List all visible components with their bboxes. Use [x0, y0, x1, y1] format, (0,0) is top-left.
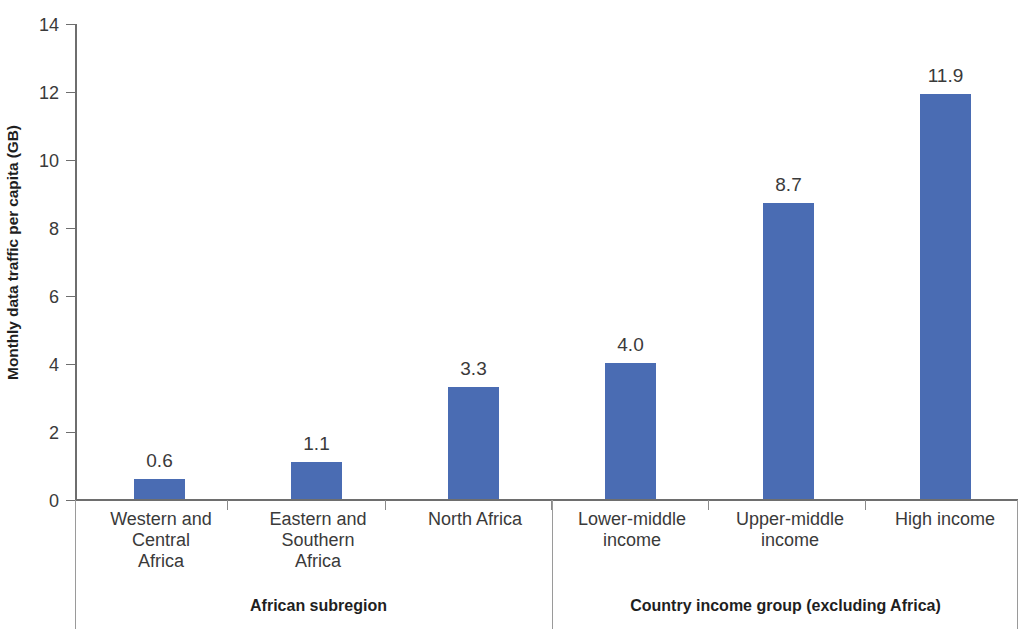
x-label-line: Eastern and	[242, 509, 394, 530]
x-label-eastern-and-southern-africa: Eastern and Southern Africa	[242, 509, 394, 572]
bar-chart: Monthly data traffic per capita (GB) 14 …	[0, 0, 1024, 629]
y-tick-label-4: 4	[49, 354, 59, 375]
x-label-line: Upper-middle	[714, 509, 866, 530]
x-label-line: income	[714, 530, 866, 551]
y-tick-label-0: 0	[49, 490, 59, 511]
y-tick-label-2: 2	[49, 422, 59, 443]
x-label-line: High income	[869, 509, 1021, 530]
plot-area: 14 12 10 8 6 4 2 0 0.6 1.1 3.3 4.0 8.7 1…	[75, 14, 1018, 500]
group-label-african-subregion: African subregion	[85, 597, 552, 615]
y-tick-0: 0	[66, 500, 75, 501]
x-label-line: Central	[85, 530, 237, 551]
y-tick-label-6: 6	[49, 286, 59, 307]
x-label-lower-middle-income: Lower-middle income	[556, 509, 708, 551]
bar-eastern-and-southern-africa[interactable]: 1.1	[291, 462, 342, 499]
bar-lower-middle-income[interactable]: 4.0	[605, 363, 656, 499]
y-axis-title: Monthly data traffic per capita (GB)	[0, 0, 26, 505]
bar-western-and-central-africa[interactable]: 0.6	[134, 479, 185, 499]
y-tick-12: 12	[66, 92, 75, 93]
y-tick-14: 14	[66, 24, 75, 25]
bar-value-label: 0.6	[146, 450, 172, 472]
y-axis-line	[75, 24, 77, 500]
y-tick-2: 2	[66, 432, 75, 433]
x-label-line: Lower-middle	[556, 509, 708, 530]
bar-value-label: 11.9	[928, 65, 964, 87]
bar-value-label: 1.1	[303, 433, 329, 455]
bar-north-africa[interactable]: 3.3	[448, 387, 499, 499]
category-label-band: Western and Central Africa Eastern and S…	[75, 500, 1018, 629]
x-label-western-and-central-africa: Western and Central Africa	[85, 509, 237, 572]
y-tick-label-14: 14	[39, 14, 59, 35]
y-tick-label-10: 10	[39, 150, 59, 171]
x-label-upper-middle-income: Upper-middle income	[714, 509, 866, 551]
y-tick-label-8: 8	[49, 218, 59, 239]
bar-value-label: 8.7	[775, 174, 801, 196]
y-tick-6: 6	[66, 296, 75, 297]
y-tick-4: 4	[66, 364, 75, 365]
x-label-line: Western and	[85, 509, 237, 530]
bar-high-income[interactable]: 11.9	[920, 94, 971, 499]
group-label-country-income-group: Country income group (excluding Africa)	[554, 597, 1017, 615]
bar-value-label: 3.3	[460, 358, 486, 380]
y-tick-10: 10	[66, 160, 75, 161]
y-tick-8: 8	[66, 228, 75, 229]
x-label-north-africa: North Africa	[399, 509, 551, 530]
x-label-line: income	[556, 530, 708, 551]
y-tick-label-12: 12	[39, 82, 59, 103]
x-label-line: Africa	[242, 551, 394, 572]
x-label-line: Africa	[85, 551, 237, 572]
bar-upper-middle-income[interactable]: 8.7	[763, 203, 814, 499]
x-label-line: Southern	[242, 530, 394, 551]
bar-value-label: 4.0	[617, 334, 643, 356]
x-label-line: North Africa	[399, 509, 551, 530]
x-label-high-income: High income	[869, 509, 1021, 530]
